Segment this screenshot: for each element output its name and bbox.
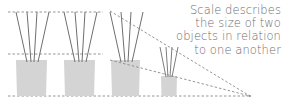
vase-1-body [16,60,47,96]
vanishing-point [249,95,251,97]
caption-line-4: to one another [176,44,281,57]
vase-2-sticks [64,12,97,62]
vase-4-body [161,76,177,96]
vase-3-sticks [110,12,143,62]
caption: Scale describes the size of two objects … [176,4,281,57]
vase-1-sticks [16,12,49,62]
vase-3 [110,12,143,96]
vase-2-body [64,60,95,96]
vase-3-body [111,60,140,96]
caption-line-3: objects in relation [176,30,281,43]
